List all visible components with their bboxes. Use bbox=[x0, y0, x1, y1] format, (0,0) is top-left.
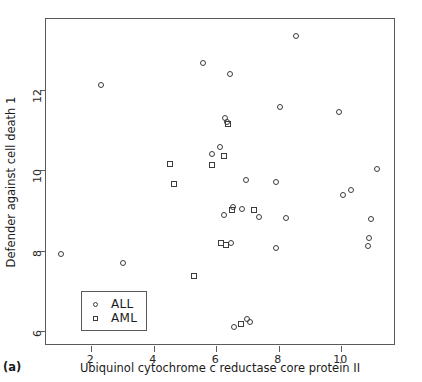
square-marker-icon bbox=[88, 316, 102, 321]
data-point-aml bbox=[221, 153, 227, 159]
scatter-plot-figure: Defender against cell death 1 681012 246… bbox=[0, 0, 422, 382]
data-point-all bbox=[340, 192, 346, 198]
data-point-aml bbox=[171, 181, 177, 187]
legend-entry-aml: AML bbox=[88, 311, 137, 325]
data-point-all bbox=[217, 144, 223, 150]
data-point-all bbox=[228, 240, 234, 246]
data-point-all bbox=[273, 245, 279, 251]
data-point-all bbox=[374, 166, 380, 172]
data-point-aml bbox=[225, 121, 231, 127]
data-point-aml bbox=[251, 207, 257, 213]
y-tick-mark bbox=[40, 170, 46, 171]
y-tick-mark bbox=[40, 331, 46, 332]
data-point-all bbox=[336, 109, 342, 115]
data-point-all bbox=[256, 214, 262, 220]
data-point-all bbox=[366, 235, 372, 241]
legend-label: ALL bbox=[111, 297, 133, 311]
data-point-all bbox=[58, 251, 64, 257]
data-point-aml bbox=[209, 162, 215, 168]
y-axis: 681012 bbox=[0, 18, 45, 345]
data-point-aml bbox=[229, 207, 235, 213]
data-point-all bbox=[283, 215, 289, 221]
panel-caption: (a) bbox=[3, 360, 21, 374]
legend: ALLAML bbox=[81, 291, 147, 331]
x-axis-title-text: Ubiquinol cytochrome c reductase core pr… bbox=[80, 361, 360, 375]
legend-label: AML bbox=[111, 311, 137, 325]
data-point-all bbox=[243, 177, 249, 183]
y-tick-label: 12 bbox=[31, 89, 44, 103]
circle-marker-icon bbox=[88, 302, 102, 307]
data-point-aml bbox=[223, 242, 229, 248]
data-point-aml bbox=[238, 321, 244, 327]
data-point-all bbox=[293, 33, 299, 39]
y-tick-mark bbox=[40, 251, 46, 252]
data-point-all bbox=[348, 187, 354, 193]
data-point-all bbox=[227, 71, 233, 77]
data-point-all bbox=[98, 82, 104, 88]
data-point-aml bbox=[191, 273, 197, 279]
data-point-all bbox=[239, 206, 245, 212]
data-point-all bbox=[273, 179, 279, 185]
data-point-all bbox=[368, 216, 374, 222]
data-point-all bbox=[247, 319, 253, 325]
data-point-all bbox=[200, 60, 206, 66]
x-axis-title: Ubiquinol cytochrome c reductase core pr… bbox=[45, 361, 395, 375]
data-point-all bbox=[365, 243, 371, 249]
legend-entry-all: ALL bbox=[88, 297, 137, 311]
data-point-all bbox=[277, 104, 283, 110]
data-point-all bbox=[231, 324, 237, 330]
data-point-aml bbox=[167, 161, 173, 167]
y-tick-mark bbox=[40, 90, 46, 91]
data-point-all bbox=[209, 151, 215, 157]
y-tick-label: 10 bbox=[31, 169, 44, 183]
data-point-all bbox=[221, 212, 227, 218]
data-point-all bbox=[120, 260, 126, 266]
